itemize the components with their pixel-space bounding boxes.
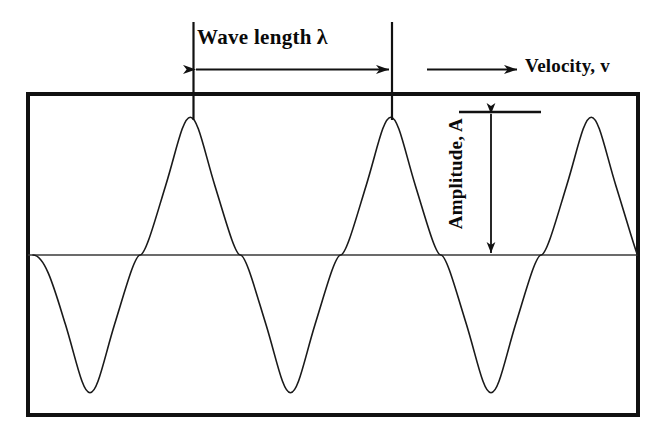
wave-diagram-figure: Wave lengthλ Velocity, v Amplitude, A bbox=[0, 0, 665, 438]
amplitude-label: Amplitude, A bbox=[446, 7, 465, 118]
lambda-symbol-icon: λ bbox=[312, 24, 328, 49]
wavelength-label: Wave lengthλ bbox=[197, 26, 328, 48]
amplitude-label-text: Amplitude, A bbox=[446, 118, 465, 229]
wavelength-label-text: Wave length bbox=[197, 25, 312, 49]
velocity-label: Velocity, v bbox=[525, 56, 610, 75]
